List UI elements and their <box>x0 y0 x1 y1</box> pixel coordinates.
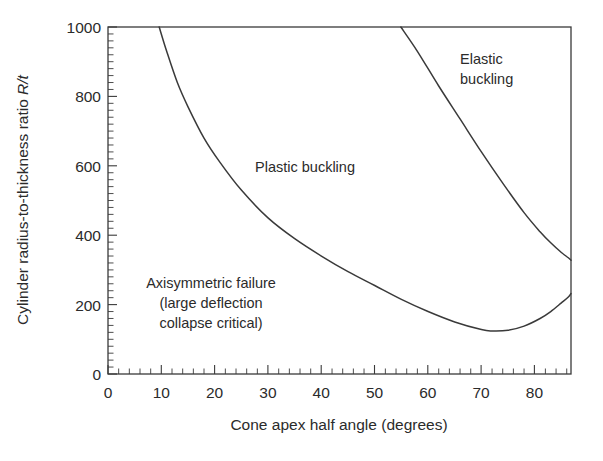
y-axis-title: Cylinder radius-to-thickness ratio R/t <box>14 74 31 325</box>
y-tick-label-600: 600 <box>75 158 101 175</box>
x-tick-label-60: 60 <box>419 384 437 401</box>
x-tick-label-50: 50 <box>366 384 384 401</box>
annotation-axi-line2: (large deflection <box>159 295 262 311</box>
y-tick-label-200: 200 <box>75 297 101 314</box>
x-tick-label-40: 40 <box>313 384 331 401</box>
annotation-plastic-line1: Plastic buckling <box>255 159 355 175</box>
x-tick-label-70: 70 <box>472 384 490 401</box>
y-axis-minor-ticks <box>108 34 114 367</box>
y-tick-label-400: 400 <box>75 227 101 244</box>
y-tick-label-1000: 1000 <box>67 19 102 36</box>
x-tick-label-30: 30 <box>259 384 277 401</box>
x-axis-minor-ticks <box>119 369 567 375</box>
y-tick-label-0: 0 <box>92 366 101 383</box>
annotation-plastic-buckling: Plastic buckling <box>255 159 355 175</box>
x-tick-label-20: 20 <box>206 384 224 401</box>
x-tick-label-10: 10 <box>153 384 171 401</box>
x-axis-title: Cone apex half angle (degrees) <box>230 416 447 433</box>
annotation-elastic-buckling: Elastic buckling <box>460 51 513 87</box>
chart-figure: 0 200 400 600 800 1000 0 10 20 30 40 50 … <box>0 0 603 461</box>
y-axis-title-main: Cylinder radius-to-thickness ratio <box>14 95 31 325</box>
x-tick-label-80: 80 <box>526 384 544 401</box>
x-tick-label-0: 0 <box>104 384 113 401</box>
y-axis-title-italic: R/t <box>14 74 31 95</box>
annotation-axi-line1: Axisymmetric failure <box>146 275 276 291</box>
annotation-elastic-line1: Elastic <box>460 51 503 67</box>
chart-svg: 0 200 400 600 800 1000 0 10 20 30 40 50 … <box>0 0 603 461</box>
y-tick-labels: 0 200 400 600 800 1000 <box>67 19 102 383</box>
annotation-axisymmetric-failure: Axisymmetric failure (large deflection c… <box>146 275 276 331</box>
annotation-elastic-line2: buckling <box>460 71 513 87</box>
y-tick-label-800: 800 <box>75 88 101 105</box>
annotation-axi-line3: collapse critical) <box>159 315 262 331</box>
x-tick-labels: 0 10 20 30 40 50 60 70 80 <box>104 384 544 401</box>
